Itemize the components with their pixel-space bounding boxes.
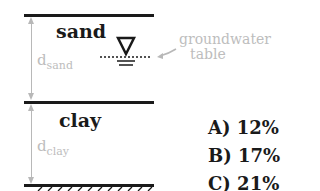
option-a[interactable]: A) 12%	[208, 117, 279, 138]
sand-depth-arrow-bottom	[28, 93, 34, 100]
d-sand-label: dsand	[37, 51, 73, 72]
option-c[interactable]: C) 21%	[208, 173, 279, 191]
sand-layer-label: sand	[56, 20, 106, 42]
groundwater-table-label: groundwater table	[179, 32, 271, 62]
clay-depth-arrow	[31, 110, 32, 178]
option-b[interactable]: B) 17%	[208, 145, 280, 166]
water-table-triangle-icon	[100, 38, 152, 65]
clay-layer-label: clay	[59, 109, 101, 131]
clay-depth-arrow-bottom	[28, 177, 34, 184]
sand-depth-arrow	[31, 22, 32, 94]
d-clay-label: dclay	[37, 137, 69, 158]
groundwater-pointer-arrow	[157, 49, 176, 59]
